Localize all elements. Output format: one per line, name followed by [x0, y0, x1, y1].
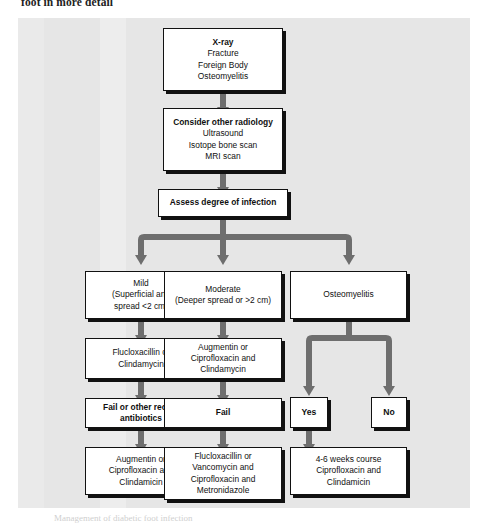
- node-mild-treatment-line-1: Clindamycin: [118, 359, 164, 370]
- node-other-radiology[interactable]: Consider other radiology Ultrasound Isot…: [163, 108, 283, 171]
- node-osteo-course[interactable]: 4-6 weeks course Ciprofloxacin and Clind…: [290, 447, 407, 495]
- node-moderate-treatment-line-2: Clindamycin: [200, 364, 246, 375]
- node-moderate-line-1: (Deeper spread or >2 cm): [175, 295, 271, 306]
- node-mild-escalation-line-2: Clindamicin: [119, 477, 162, 488]
- node-osteo-yes[interactable]: Yes: [290, 397, 328, 428]
- node-moderate-escalation-line-0: Flucloxacillin or: [194, 451, 251, 462]
- node-osteo-course-line-1: Ciprofloxacin and: [316, 465, 381, 476]
- node-moderate-escalation-line-3: Metronidazole: [197, 485, 250, 496]
- node-moderate-treatment-line-0: Augmentin or: [198, 342, 248, 353]
- page-caption-top: foot in more detail: [21, 0, 113, 8]
- edge-osteo-to-yes: [309, 338, 312, 386]
- node-mild-line-2: spread <2 cm): [114, 301, 168, 312]
- node-xray[interactable]: X-ray Fracture Foreign Body Osteomyeliti…: [163, 28, 283, 91]
- node-moderate-escalation-line-2: Ciprofloxacin and: [191, 474, 256, 485]
- node-mild-escalation-line-0: Augmentin or: [116, 454, 166, 465]
- node-other-radiology-line-2: Isotope bone scan: [189, 140, 257, 151]
- node-other-radiology-line-3: MRI scan: [205, 151, 240, 162]
- edge-bus-to-osteomyelitis: [346, 237, 349, 255]
- node-assess-infection-line-0: Assess degree of infection: [170, 197, 277, 208]
- node-moderate[interactable]: Moderate (Deeper spread or >2 cm): [164, 271, 282, 319]
- node-xray-line-3: Osteomyelitis: [198, 71, 248, 82]
- node-other-radiology-line-1: Ultrasound: [203, 128, 244, 139]
- node-osteo-no-line-0: No: [383, 407, 394, 418]
- node-mild-treatment-line-0: Flucloxacillin or: [112, 347, 169, 358]
- node-moderate-treatment[interactable]: Augmentin or Ciprofloxacin and Clindamyc…: [164, 338, 282, 379]
- node-moderate-fail-line-0: Fail: [216, 407, 230, 418]
- node-osteo-course-line-0: 4-6 weeks course: [316, 454, 382, 465]
- flowchart-panel: X-ray Fracture Foreign Body Osteomyeliti…: [18, 18, 470, 508]
- node-moderate-escalation[interactable]: Flucloxacillin or Vancomycin and Ciprofl…: [164, 447, 282, 500]
- node-moderate-fail[interactable]: Fail: [164, 398, 282, 428]
- node-osteo-no[interactable]: No: [371, 397, 407, 428]
- node-osteo-course-line-2: Clindamicin: [327, 477, 370, 488]
- node-mild-line-1: (Superficial and: [112, 289, 170, 300]
- node-other-radiology-line-0: Consider other radiology: [173, 117, 273, 128]
- flowchart-connectors: [18, 18, 470, 508]
- node-moderate-line-0: Moderate: [205, 284, 240, 295]
- edge-osteo-to-no: [386, 338, 389, 386]
- node-osteomyelitis[interactable]: Osteomyelitis: [290, 271, 407, 319]
- node-xray-line-1: Fracture: [207, 48, 238, 59]
- node-assess-infection[interactable]: Assess degree of infection: [158, 189, 288, 217]
- node-moderate-escalation-line-1: Vancomycin and: [192, 462, 253, 473]
- figure-caption: Management of diabetic foot infection: [54, 513, 192, 523]
- node-osteo-yes-line-0: Yes: [302, 407, 317, 418]
- node-moderate-treatment-line-1: Ciprofloxacin and: [191, 353, 256, 364]
- node-mild-fail-line-1: antibiotics: [120, 413, 162, 424]
- node-xray-line-0: X-ray: [213, 37, 234, 48]
- node-xray-line-2: Foreign Body: [198, 60, 248, 71]
- node-osteomyelitis-line-0: Osteomyelitis: [323, 289, 373, 300]
- node-mild-line-0: Mild: [133, 278, 148, 289]
- edge-bus-to-mild: [141, 237, 144, 255]
